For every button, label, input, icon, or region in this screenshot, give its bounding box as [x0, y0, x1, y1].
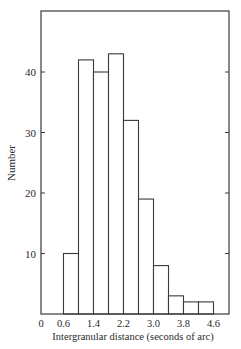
x-tick-label: 1.4: [87, 318, 101, 329]
y-tick-label: 30: [25, 127, 37, 139]
histogram-bar: [79, 60, 94, 314]
histogram-bar: [109, 54, 124, 314]
y-tick-label: 20: [25, 187, 37, 199]
histogram-bar: [124, 120, 139, 314]
y-tick-label: 40: [25, 66, 37, 78]
histogram-bar: [139, 199, 154, 314]
histogram-bar: [199, 302, 214, 314]
x-tick-label: 3.0: [147, 318, 160, 329]
histogram-bar: [169, 296, 184, 314]
y-axis-label: Number: [5, 145, 17, 181]
histogram-bar: [154, 266, 169, 314]
x-tick-label: 0.6: [57, 318, 70, 329]
histogram-chart: 10203040 00.61.42.23.03.84.6 Number Inte…: [0, 0, 241, 349]
x-tick-label: 4.6: [207, 318, 220, 329]
x-tick-label: 3.8: [177, 318, 190, 329]
x-tick-label: 0: [38, 318, 43, 329]
x-axis-ticks: 00.61.42.23.03.84.6: [38, 318, 220, 329]
histogram-bar: [64, 254, 79, 315]
histogram-bar: [94, 72, 109, 314]
y-tick-label: 10: [25, 248, 37, 260]
histogram-bar: [184, 302, 199, 314]
x-axis-label: Intergranular distance (seconds of arc): [52, 331, 214, 343]
histogram-bars: [64, 54, 214, 314]
x-tick-label: 2.2: [117, 318, 130, 329]
